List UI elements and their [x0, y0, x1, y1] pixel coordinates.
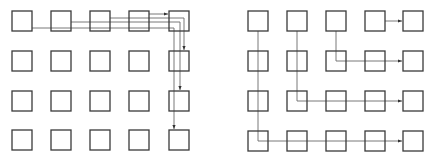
- node-box-r1c1: [51, 51, 71, 71]
- node-box-r0c2: [90, 11, 110, 31]
- node-box-r0c4: [403, 11, 423, 31]
- node-box-r1c3: [129, 51, 149, 71]
- node-box-r0c1: [51, 11, 71, 31]
- node-box-r3c0: [248, 131, 268, 151]
- node-box-r0c0: [248, 11, 268, 31]
- route-path-r0c1-to-r2c4: [71, 22, 180, 90]
- node-box-r2c2: [326, 91, 346, 111]
- node-box-r2c3: [129, 91, 149, 111]
- node-box-r3c3: [365, 131, 385, 151]
- node-box-r2c3: [365, 91, 385, 111]
- node-box-r1c4: [169, 51, 189, 71]
- route-path-r0c0-to-r3c4: [32, 28, 174, 129]
- node-box-r1c2: [90, 51, 110, 71]
- node-box-r2c1: [51, 91, 71, 111]
- node-box-r0c0: [12, 11, 32, 31]
- routing-diagram: [0, 0, 433, 163]
- node-box-r2c4: [169, 91, 189, 111]
- node-box-r1c4: [403, 51, 423, 71]
- node-box-r1c0: [12, 51, 32, 71]
- node-box-r3c1: [287, 131, 307, 151]
- node-box-r3c3: [129, 130, 149, 150]
- node-box-r1c0: [248, 51, 268, 71]
- left-grid: [12, 11, 189, 150]
- node-box-r2c4: [403, 91, 423, 111]
- node-box-r3c1: [51, 130, 71, 150]
- node-box-r1c2: [326, 51, 346, 71]
- node-box-r0c3: [129, 11, 149, 31]
- node-box-r3c4: [169, 130, 189, 150]
- node-box-r2c2: [90, 91, 110, 111]
- node-box-r1c1: [287, 51, 307, 71]
- node-box-r2c1: [287, 91, 307, 111]
- route-path-r0c0-to-r3c4: [258, 31, 402, 141]
- node-box-r1c3: [365, 51, 385, 71]
- node-box-r0c2: [326, 11, 346, 31]
- route-path-r0c1-to-r2c4: [297, 31, 402, 101]
- node-box-r0c3: [365, 11, 385, 31]
- right-grid: [248, 11, 423, 151]
- node-box-r2c0: [12, 91, 32, 111]
- node-box-r2c0: [248, 91, 268, 111]
- node-box-r0c1: [287, 11, 307, 31]
- node-box-r3c4: [403, 131, 423, 151]
- node-box-r3c0: [12, 130, 32, 150]
- node-box-r0c4: [169, 11, 189, 31]
- node-box-r3c2: [90, 130, 110, 150]
- node-box-r3c2: [326, 131, 346, 151]
